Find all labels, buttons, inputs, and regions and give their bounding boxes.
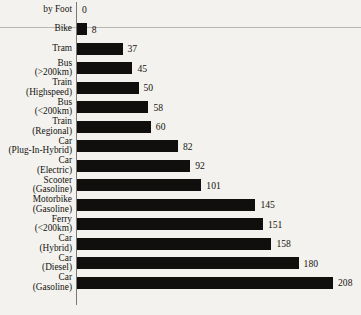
bar-row: Ferry(<200km)151 bbox=[0, 215, 361, 235]
bar-row: Car(Electric)92 bbox=[0, 156, 361, 176]
bar bbox=[77, 43, 123, 55]
bar-row: Train(Regional)60 bbox=[0, 117, 361, 137]
category-label: Ferry(<200km) bbox=[0, 215, 72, 235]
bar bbox=[77, 121, 151, 133]
category-label-line2: (Gasoline) bbox=[33, 283, 72, 293]
bar-row: Bus(<200km)58 bbox=[0, 98, 361, 118]
bar-row: Bus(>200km)45 bbox=[0, 59, 361, 79]
bar bbox=[77, 82, 139, 94]
bar-row: by Foot0 bbox=[0, 0, 361, 20]
bar-row: Motorbike(Gasoline)145 bbox=[0, 195, 361, 215]
category-label: Scooter(Gasoline) bbox=[0, 176, 72, 196]
category-label: Car(Diesel) bbox=[0, 254, 72, 274]
category-label: Train(Highspeed) bbox=[0, 78, 72, 98]
bar-value-label: 158 bbox=[276, 237, 290, 250]
bar-value-label: 0 bbox=[82, 3, 87, 16]
bar bbox=[77, 238, 271, 250]
category-label: Bus(<200km) bbox=[0, 98, 72, 118]
category-label-line1: by Foot bbox=[43, 5, 72, 15]
category-label: Car(Gasoline) bbox=[0, 273, 72, 293]
bar-row: Scooter(Gasoline)101 bbox=[0, 176, 361, 196]
bar-value-label: 101 bbox=[206, 179, 220, 192]
bar-value-label: 37 bbox=[128, 42, 138, 55]
bar-value-label: 180 bbox=[304, 257, 318, 270]
bar-value-label: 58 bbox=[153, 101, 163, 114]
bar bbox=[77, 218, 263, 230]
bar-value-label: 82 bbox=[183, 140, 193, 153]
bar-value-label: 145 bbox=[260, 198, 274, 211]
category-label: Motorbike(Gasoline) bbox=[0, 195, 72, 215]
category-label-line2: (Highspeed) bbox=[26, 88, 72, 98]
bar-value-label: 208 bbox=[338, 276, 352, 289]
bar-value-label: 92 bbox=[195, 159, 205, 172]
category-label-line2: (Electric) bbox=[37, 166, 72, 176]
bar-row: Car(Diesel)180 bbox=[0, 254, 361, 274]
category-label-line2: (Regional) bbox=[32, 127, 72, 137]
bar-value-label: 8 bbox=[92, 23, 97, 36]
bar bbox=[77, 199, 255, 211]
category-label: by Foot bbox=[0, 0, 72, 20]
bar-value-label: 60 bbox=[156, 120, 166, 133]
bar bbox=[77, 277, 333, 289]
category-label: Car(Electric) bbox=[0, 156, 72, 176]
bar bbox=[77, 62, 132, 74]
category-label: Car(Hybrid) bbox=[0, 234, 72, 254]
bar bbox=[77, 160, 190, 172]
category-label: Car(Plug-In-Hybrid) bbox=[0, 137, 72, 157]
category-label: Train(Regional) bbox=[0, 117, 72, 137]
category-label-line2: (Gasoline) bbox=[33, 205, 72, 215]
bar-row: Tram37 bbox=[0, 39, 361, 59]
bar bbox=[77, 101, 148, 113]
bar bbox=[77, 179, 201, 191]
bar-row: Car(Plug-In-Hybrid)82 bbox=[0, 137, 361, 157]
category-label-line2: (Hybrid) bbox=[39, 244, 72, 254]
bar-chart: by Foot0Bike8Tram37Bus(>200km)45Train(Hi… bbox=[0, 0, 361, 315]
bar-row: Car(Gasoline)208 bbox=[0, 273, 361, 293]
bar-row: Train(Highspeed)50 bbox=[0, 78, 361, 98]
bar-value-label: 45 bbox=[137, 62, 147, 75]
bar bbox=[77, 140, 178, 152]
bar-value-label: 50 bbox=[144, 81, 154, 94]
category-label: Bus(>200km) bbox=[0, 59, 72, 79]
bar bbox=[77, 23, 87, 35]
category-label: Tram bbox=[0, 39, 72, 59]
bar-row: Bike8 bbox=[0, 20, 361, 40]
category-label-line1: Tram bbox=[52, 44, 72, 54]
bar bbox=[77, 257, 299, 269]
category-label: Bike bbox=[0, 20, 72, 40]
bar-value-label: 151 bbox=[268, 218, 282, 231]
bar-row: Car(Hybrid)158 bbox=[0, 234, 361, 254]
category-label-line1: Bike bbox=[54, 24, 72, 34]
